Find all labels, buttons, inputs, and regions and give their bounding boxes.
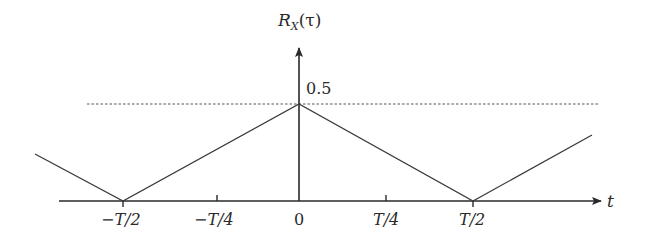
y-axis-label: RX(τ) bbox=[278, 10, 321, 33]
peak-value-label: 0.5 bbox=[306, 79, 331, 98]
x-axis-label: t bbox=[607, 191, 614, 211]
autocorrelation-curve bbox=[35, 104, 592, 201]
tick-label-half: T/2 bbox=[459, 210, 485, 229]
tick-label-neg-quarter: −T/4 bbox=[194, 210, 234, 229]
tick-label-neg-half: −T/2 bbox=[101, 210, 141, 229]
plot-canvas bbox=[0, 0, 649, 243]
tick-label-zero: 0 bbox=[294, 210, 304, 229]
tick-label-quarter: T/4 bbox=[373, 210, 399, 229]
autocorrelation-diagram: RX(τ) 0.5 t −T/2 −T/4 0 T/4 T/2 bbox=[0, 0, 649, 243]
